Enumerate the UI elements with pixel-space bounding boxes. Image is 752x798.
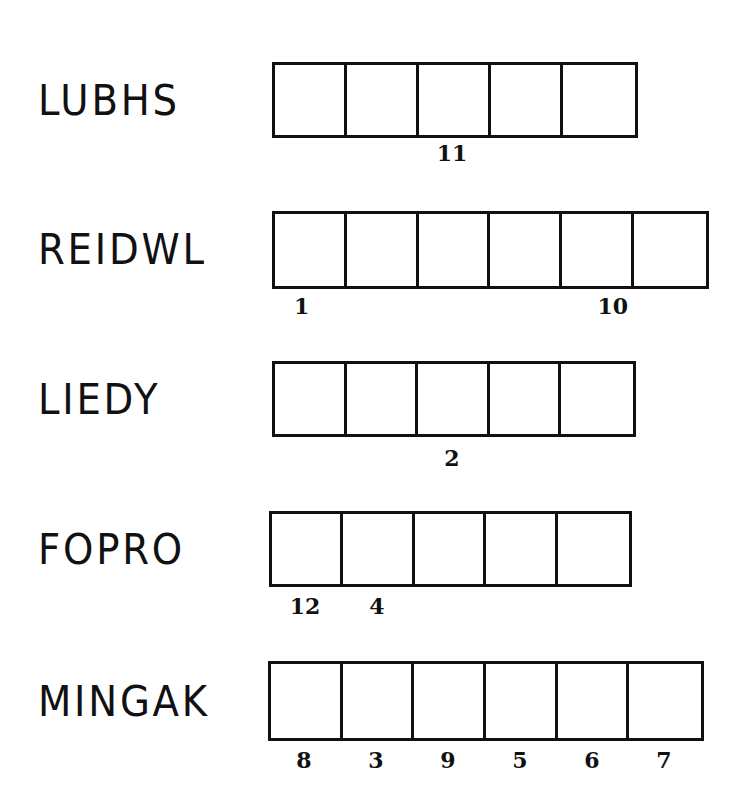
box-number: 4 [341,593,413,619]
letter-box[interactable] [486,514,557,584]
answer-boxes [268,661,704,741]
box-number: 10 [560,293,632,319]
letter-box[interactable] [634,214,706,286]
jumble-row-1: LUBHS 11 [0,62,752,172]
box-numbers: 8 3 9 5 6 7 [268,747,700,773]
letter-box[interactable] [419,65,491,135]
scrambled-word: LIEDY [38,375,160,424]
box-number [344,140,416,166]
box-number: 7 [628,747,700,773]
box-number [344,445,416,471]
letter-box[interactable] [418,364,490,434]
box-numbers: 11 [272,140,632,166]
box-number [485,593,557,619]
box-number [557,593,629,619]
letter-box[interactable] [486,664,558,738]
letter-box[interactable] [343,664,415,738]
box-number [632,293,704,319]
scrambled-word: FOPRO [38,525,185,574]
box-number: 1 [272,293,344,319]
box-number: 11 [416,140,488,166]
letter-box[interactable] [562,214,634,286]
jumble-row-3: LIEDY 2 [0,361,752,471]
box-number: 12 [269,593,341,619]
letter-box[interactable] [561,364,633,434]
answer-boxes [272,361,636,437]
answer-boxes [269,511,632,587]
scrambled-word: REIDWL [38,225,207,274]
letter-box[interactable] [490,364,562,434]
letter-box[interactable] [347,65,419,135]
box-numbers: 2 [272,445,632,471]
box-number: 9 [412,747,484,773]
letter-box[interactable] [272,514,343,584]
scrambled-word: MINGAK [38,677,210,726]
jumble-row-4: FOPRO 12 4 [0,511,752,621]
box-number [272,140,344,166]
letter-box[interactable] [558,514,629,584]
letter-box[interactable] [414,664,486,738]
letter-box[interactable] [491,65,563,135]
letter-box[interactable] [275,214,347,286]
letter-box[interactable] [343,514,414,584]
jumble-row-5: MINGAK 8 3 9 5 6 7 [0,661,752,781]
box-number [272,445,344,471]
answer-boxes [272,211,709,289]
letter-box[interactable] [415,514,486,584]
box-number [488,293,560,319]
box-number [488,445,560,471]
box-numbers: 12 4 [269,593,629,619]
box-number [344,293,416,319]
letter-box[interactable] [275,364,347,434]
box-number: 6 [556,747,628,773]
box-numbers: 1 10 [272,293,704,319]
box-number [560,140,632,166]
letter-box[interactable] [563,65,635,135]
box-number [416,293,488,319]
letter-box[interactable] [558,664,630,738]
scrambled-word: LUBHS [38,76,180,125]
box-number: 8 [268,747,340,773]
letter-box[interactable] [347,214,419,286]
box-number: 3 [340,747,412,773]
box-number: 5 [484,747,556,773]
box-number [488,140,560,166]
jumble-row-2: REIDWL 1 10 [0,211,752,321]
letter-box[interactable] [271,664,343,738]
letter-box[interactable] [629,664,701,738]
letter-box[interactable] [419,214,491,286]
box-number [413,593,485,619]
box-number [560,445,632,471]
letter-box[interactable] [347,364,419,434]
letter-box[interactable] [490,214,562,286]
letter-box[interactable] [275,65,347,135]
box-number: 2 [416,445,488,471]
answer-boxes [272,62,638,138]
